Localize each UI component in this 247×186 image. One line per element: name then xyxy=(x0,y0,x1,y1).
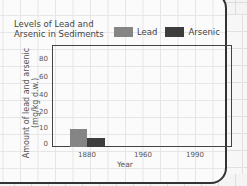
chart-title-line-1: Levels of Lead and xyxy=(14,19,104,29)
legend: Lead Arsenic xyxy=(114,27,228,37)
y-tick: 20 xyxy=(34,108,48,116)
y-tick: 80 xyxy=(34,55,48,63)
legend-swatch-lead xyxy=(114,27,133,37)
bar-lead-1880 xyxy=(70,129,87,147)
chart-title: Levels of Lead and Arsenic in Sediments xyxy=(14,19,104,39)
y-tick: 60 xyxy=(34,73,48,81)
x-tick: 1880 xyxy=(72,151,102,159)
legend-label-lead: Lead xyxy=(137,27,157,37)
bar-arsenic-1880 xyxy=(87,138,105,147)
y-tick: 0 xyxy=(34,140,48,148)
y-tick: 10 xyxy=(34,124,48,132)
legend-label-arsenic: Arsenic xyxy=(188,27,219,37)
x-tick: 1990 xyxy=(180,151,210,159)
y-tick: 40 xyxy=(34,91,48,99)
x-tick: 1960 xyxy=(128,151,158,159)
x-axis-label: Year xyxy=(117,160,133,169)
y-axis-label-line-1: Amount of lead and arsenic xyxy=(22,38,31,168)
legend-swatch-arsenic xyxy=(165,27,184,37)
